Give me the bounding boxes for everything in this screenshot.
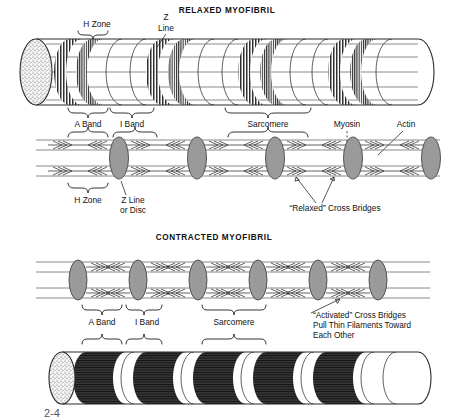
label-i-band-relaxed: I Band: [120, 119, 145, 129]
label-h-zone-top: H Zone: [83, 19, 111, 29]
figure-number: 2-4: [44, 407, 60, 418]
label-sarcomere-contracted: Sarcomere: [214, 317, 255, 327]
label-z-line-bottom-2: or Disc: [120, 205, 146, 215]
label-actin: Actin: [397, 119, 416, 129]
label-z-line-bottom-1: Z Line: [121, 195, 145, 205]
contracted-cylinder-cut-face: [49, 352, 75, 404]
cylinder-cut-face: [20, 39, 52, 105]
relaxed-panel-title: RELAXED MYOFIBRIL: [179, 6, 276, 15]
label-z-line-top-1: Z: [163, 12, 168, 22]
contracted-myofibril-cylinder: [49, 352, 431, 404]
relaxed-myofibril-cylinder: [20, 39, 434, 105]
label-activated-cross-bridges-2: Pull Thin Filaments Toward: [313, 321, 411, 330]
label-z-line-top-2: Line: [158, 23, 174, 33]
label-relaxed-cross-bridges: “Relaxed” Cross Bridges: [289, 203, 380, 213]
contracted-panel-title: CONTRACTED MYOFIBRIL: [156, 233, 273, 242]
label-activated-cross-bridges-3: Each Other: [313, 331, 355, 340]
label-h-zone-bottom: H Zone: [74, 195, 102, 205]
myofibril-diagram: RELAXED MYOFIBRIL: [0, 0, 455, 418]
label-a-band-contracted: A Band: [88, 317, 115, 327]
label-myosin: Myosin: [334, 119, 361, 129]
label-activated-cross-bridges-1: “Activated” Cross Bridges: [313, 311, 406, 320]
label-i-band-contracted: I Band: [135, 317, 160, 327]
